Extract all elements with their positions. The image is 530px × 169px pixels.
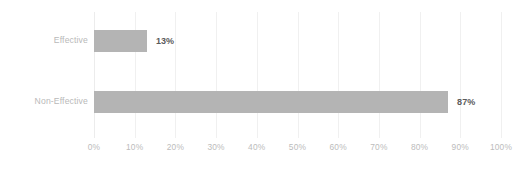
category-axis: EffectiveNon-Effective — [0, 12, 88, 138]
x-tick-label-20: 20% — [167, 142, 184, 152]
x-tick-label-70: 70% — [370, 142, 387, 152]
bar-chart: 13%87% EffectiveNon-Effective 0%10%20%30… — [0, 0, 530, 169]
bar-value-label: 87% — [457, 97, 475, 107]
bar-non-effective[interactable] — [94, 91, 448, 113]
x-tick-label-100: 100% — [490, 142, 512, 152]
bar-value-label: 13% — [156, 36, 174, 46]
x-tick-label-0: 0% — [88, 142, 101, 152]
gridline-100 — [501, 12, 502, 138]
x-tick-label-80: 80% — [411, 142, 428, 152]
bar-row: 13% — [94, 30, 501, 52]
x-tick-label-40: 40% — [248, 142, 265, 152]
x-tick-label-90: 90% — [452, 142, 469, 152]
x-tick-label-50: 50% — [289, 142, 306, 152]
category-label-non-effective: Non-Effective — [2, 96, 88, 106]
x-tick-label-10: 10% — [126, 142, 143, 152]
category-label-effective: Effective — [2, 35, 88, 45]
bar-row: 87% — [94, 91, 501, 113]
x-tick-label-30: 30% — [207, 142, 224, 152]
x-tick-label-60: 60% — [330, 142, 347, 152]
plot-area: 13%87% — [94, 12, 501, 138]
bar-effective[interactable] — [94, 30, 147, 52]
x-axis: 0%10%20%30%40%50%60%70%80%90%100% — [0, 142, 530, 158]
